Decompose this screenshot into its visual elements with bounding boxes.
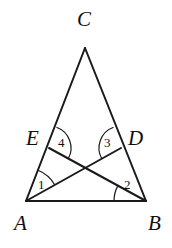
angle-label-1: 1	[38, 178, 45, 191]
vertex-label-B: B	[148, 213, 161, 234]
angle-label-2: 2	[124, 178, 131, 191]
cevian-AD	[26, 148, 121, 201]
geometry-figure: C E D A B 1 2 3 4	[0, 0, 172, 248]
angle-label-3: 3	[104, 136, 111, 149]
vertex-label-E: E	[26, 128, 39, 149]
side-AC	[26, 48, 85, 201]
angle-arc-2	[114, 186, 118, 201]
vertex-label-C: C	[77, 9, 91, 30]
vertex-label-D: D	[128, 128, 143, 149]
vertex-label-A: A	[14, 213, 27, 234]
angle-label-4: 4	[58, 136, 65, 149]
cevian-BE	[49, 148, 146, 201]
side-BC	[85, 48, 146, 201]
